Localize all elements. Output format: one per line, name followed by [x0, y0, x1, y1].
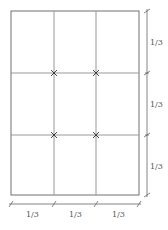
- vertical-dimension-label-1: 1/3: [150, 38, 163, 47]
- horizontal-dimension-line: [9, 201, 141, 207]
- horizontal-dimension-label-2: 1/3: [69, 210, 82, 219]
- rule-of-thirds-diagram: 1/3 1/3 1/3 1/3 1/3 1/3: [0, 0, 168, 230]
- horizontal-dimension-label-1: 1/3: [26, 210, 39, 219]
- vertical-dimension-label-3: 1/3: [150, 162, 163, 171]
- horizontal-dimension-label-3: 1/3: [112, 210, 125, 219]
- frame: [11, 11, 139, 195]
- vertical-dimension-label-2: 1/3: [150, 100, 163, 109]
